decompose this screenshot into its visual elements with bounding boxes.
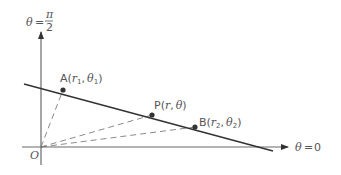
horizontal-theta: θ [295,141,302,154]
polar-line-diagram: θ = π 2 θ = 0 O A(r1,θ1) P(r,θ) B(r2,θ2) [0,0,341,175]
dashed-ray-to-p [41,115,152,147]
horizontal-axis-label: θ = 0 [295,141,321,154]
point-p-label: P(r,θ) [154,99,187,112]
horizontal-value: 0 [314,141,321,154]
point-a-dot [60,87,65,92]
dashed-ray-to-b [41,127,195,147]
vertical-axis-label: θ = π 2 [26,8,54,34]
point-b-dot [192,124,197,129]
point-b-label: B(r2,θ2) [199,116,241,130]
vertical-equals: = [35,16,44,29]
point-a-label: A(r1,θ1) [60,72,102,86]
dashed-ray-to-a [41,90,63,147]
vertical-theta: θ [26,16,33,29]
origin-label: O [30,149,39,162]
horizontal-equals: = [304,141,313,154]
vertical-numerator: π [45,8,54,21]
vertical-denominator: 2 [46,21,53,34]
point-p-dot [149,112,154,117]
